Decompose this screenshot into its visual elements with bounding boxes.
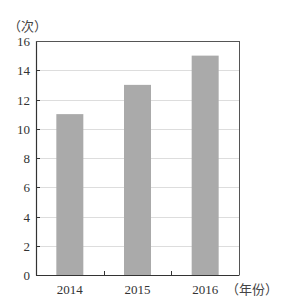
y-tick-label: 16 [17,34,31,49]
y-tick-label: 14 [17,63,31,78]
y-tick-label: 8 [24,151,31,166]
y-tick-label: 2 [24,239,31,254]
y-tick-label: 0 [24,268,31,283]
bar-2014 [56,114,83,275]
y-tick-label: 4 [24,210,31,225]
bar-2016 [192,56,219,275]
x-tick-label: 2014 [57,282,84,297]
x-tick-labels: 201420152016 [57,282,219,297]
bar-2015 [124,85,151,275]
x-tick-label: 2016 [192,282,219,297]
y-tick-label: 10 [17,122,30,137]
y-tick-label: 6 [24,180,31,195]
bar-chart: 0246810121416 201420152016 [0,0,283,308]
bars [56,56,218,275]
y-tick-labels: 0246810121416 [17,34,31,283]
y-tick-label: 12 [17,93,30,108]
x-tick-label: 2015 [125,282,151,297]
